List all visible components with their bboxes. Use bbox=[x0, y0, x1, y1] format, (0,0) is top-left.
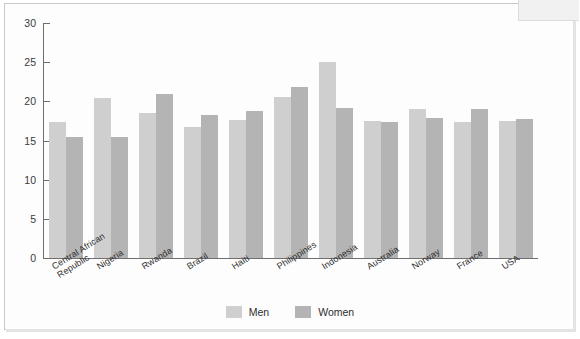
legend-item[interactable]: Men bbox=[226, 306, 269, 318]
bar-women bbox=[201, 115, 218, 258]
bar-women bbox=[336, 108, 353, 258]
bar-group bbox=[499, 23, 533, 258]
bar-women bbox=[516, 119, 533, 258]
bar-women bbox=[426, 118, 443, 258]
bar-men bbox=[454, 122, 471, 258]
bar-women bbox=[66, 137, 83, 258]
bar-group bbox=[364, 23, 398, 258]
bar-men bbox=[184, 127, 201, 258]
bars-layer bbox=[43, 23, 538, 258]
bar-women bbox=[291, 87, 308, 258]
bar-men bbox=[364, 121, 381, 258]
grouped-bar-chart: 051015202530 Central African RepublicNig… bbox=[0, 0, 580, 339]
bar-women bbox=[381, 122, 398, 258]
bar-women bbox=[246, 111, 263, 258]
bar-men bbox=[274, 97, 291, 258]
y-axis-tick-label: 10 bbox=[0, 175, 36, 186]
chart-screenshot: 051015202530 Central African RepublicNig… bbox=[0, 0, 580, 339]
bar-men bbox=[409, 109, 426, 258]
y-axis-tick-label: 30 bbox=[0, 18, 36, 29]
legend-swatch-icon bbox=[226, 306, 242, 318]
bar-group bbox=[139, 23, 173, 258]
legend-label: Men bbox=[249, 307, 269, 318]
y-axis-tick-label: 20 bbox=[0, 96, 36, 107]
bar-men bbox=[319, 62, 336, 258]
bar-group bbox=[49, 23, 83, 258]
bar-women bbox=[111, 137, 128, 258]
bar-group bbox=[319, 23, 353, 258]
bar-women bbox=[471, 109, 488, 258]
bar-men bbox=[499, 121, 516, 258]
y-axis-tick-label: 0 bbox=[0, 253, 36, 264]
bar-women bbox=[156, 94, 173, 258]
bar-men bbox=[49, 122, 66, 258]
legend-label: Women bbox=[318, 307, 354, 318]
bar-group bbox=[229, 23, 263, 258]
bar-group bbox=[454, 23, 488, 258]
bar-group bbox=[274, 23, 308, 258]
bar-group bbox=[409, 23, 443, 258]
chart-legend: MenWomen bbox=[0, 306, 580, 318]
bar-men bbox=[139, 113, 156, 258]
y-axis-tick-label: 25 bbox=[0, 57, 36, 68]
bar-men bbox=[229, 120, 246, 258]
bar-group bbox=[184, 23, 218, 258]
y-axis-tick-label: 5 bbox=[0, 214, 36, 225]
legend-item[interactable]: Women bbox=[295, 306, 354, 318]
bar-group bbox=[94, 23, 128, 258]
legend-swatch-icon bbox=[295, 306, 311, 318]
y-axis-tick-label: 15 bbox=[0, 136, 36, 147]
